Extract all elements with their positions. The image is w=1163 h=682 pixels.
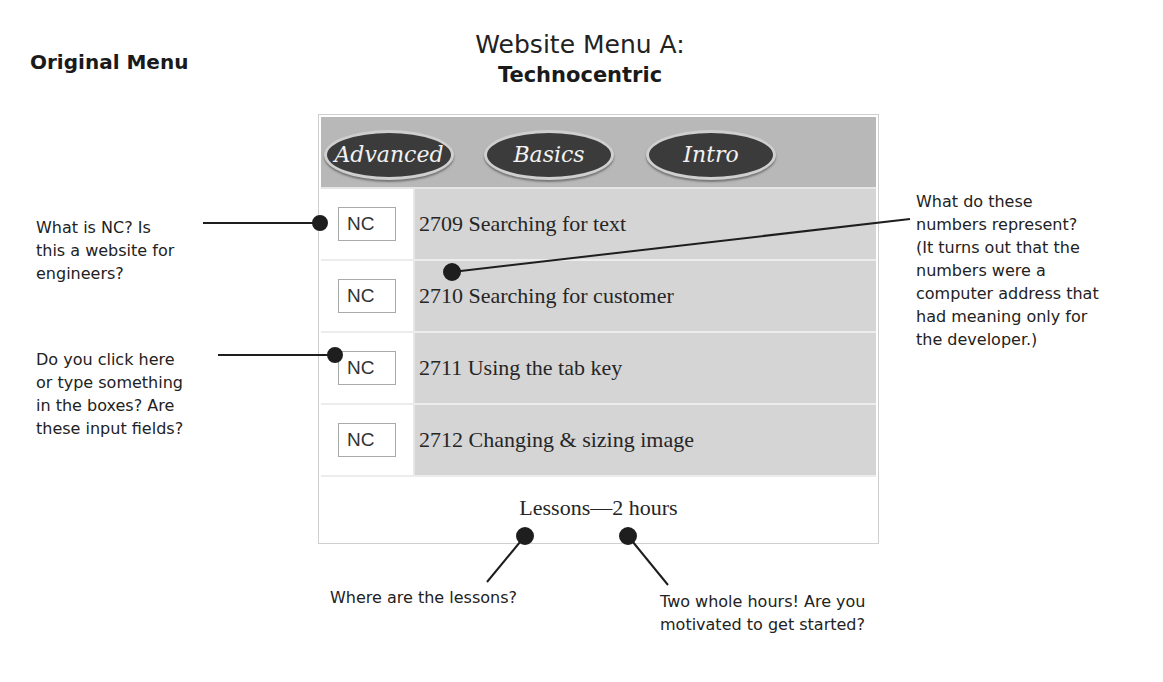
menu-header-band: Advanced Basics Intro bbox=[321, 117, 876, 189]
lesson-row[interactable]: NC 2710 Searching for customer bbox=[321, 261, 876, 333]
website-menu-panel: Advanced Basics Intro NC 2709 Searching … bbox=[318, 114, 879, 544]
lesson-link[interactable]: 2710 Searching for customer bbox=[415, 261, 876, 331]
menu-title: Website Menu A: bbox=[380, 30, 780, 60]
lesson-row[interactable]: NC 2709 Searching for text bbox=[321, 189, 876, 261]
tab-intro[interactable]: Intro bbox=[646, 130, 776, 180]
nc-input-box[interactable]: NC bbox=[338, 423, 396, 457]
annotation-hours-question: Two whole hours! Are you motivated to ge… bbox=[660, 590, 865, 636]
annotation-numbers-question: What do these numbers represent? (It tur… bbox=[916, 190, 1099, 351]
nc-input-box[interactable]: NC bbox=[338, 207, 396, 241]
tab-advanced[interactable]: Advanced bbox=[324, 130, 454, 180]
lesson-link[interactable]: 2709 Searching for text bbox=[415, 189, 876, 259]
nc-input-box[interactable]: NC bbox=[338, 351, 396, 385]
code-cell: NC bbox=[321, 261, 415, 331]
tab-basics[interactable]: Basics bbox=[484, 130, 614, 180]
lesson-link[interactable]: 2711 Using the tab key bbox=[415, 333, 876, 403]
code-cell: NC bbox=[321, 189, 415, 259]
code-cell: NC bbox=[321, 333, 415, 403]
annotation-lessons-question: Where are the lessons? bbox=[330, 586, 517, 609]
original-menu-label: Original Menu bbox=[30, 50, 188, 74]
nc-input-box[interactable]: NC bbox=[338, 279, 396, 313]
annotation-nc-question: What is NC? Is this a website for engine… bbox=[36, 216, 174, 285]
code-cell: NC bbox=[321, 405, 415, 475]
lessons-duration-footer: Lessons—2 hours bbox=[321, 475, 876, 541]
annotation-input-question: Do you click here or type something in t… bbox=[36, 348, 183, 440]
lesson-row[interactable]: NC 2712 Changing & sizing image bbox=[321, 405, 876, 477]
lesson-row[interactable]: NC 2711 Using the tab key bbox=[321, 333, 876, 405]
menu-subtitle: Technocentric bbox=[380, 62, 780, 88]
lesson-link[interactable]: 2712 Changing & sizing image bbox=[415, 405, 876, 475]
